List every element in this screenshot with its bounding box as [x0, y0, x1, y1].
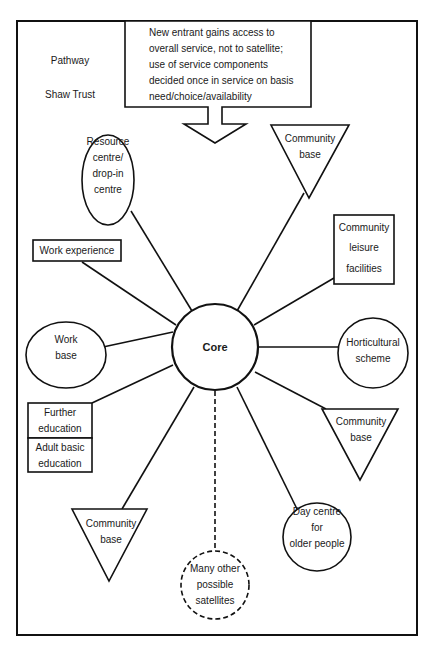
other-satellites-node: Many other possible satellites — [181, 551, 249, 619]
svg-text:Resource: Resource — [87, 136, 130, 147]
svg-text:Community: Community — [336, 416, 387, 427]
svg-text:Work experience: Work experience — [40, 245, 115, 256]
community-leisure-node: Community leisure facilities — [334, 215, 394, 284]
svg-text:Work: Work — [54, 334, 78, 345]
day-centre-node: Day centre for older people — [283, 503, 351, 571]
further-education-node: Further education — [28, 403, 92, 438]
svg-text:centre/: centre/ — [93, 152, 124, 163]
svg-text:scheme: scheme — [355, 353, 390, 364]
svg-text:centre: centre — [94, 184, 122, 195]
svg-text:Adult basic: Adult basic — [36, 442, 85, 453]
svg-text:Horticultural: Horticultural — [346, 337, 399, 348]
shaw-trust-label: Shaw Trust — [45, 89, 95, 100]
svg-text:decided once in service on bas: decided once in service on basis — [149, 75, 294, 86]
resource-centre-node: Resource centre/ drop-in centre — [82, 135, 134, 225]
svg-text:Further: Further — [44, 407, 77, 418]
svg-text:Many other: Many other — [190, 563, 241, 574]
svg-text:base: base — [55, 350, 77, 361]
svg-text:need/choice/availability: need/choice/availability — [149, 91, 252, 102]
adult-basic-education-node: Adult basic education — [28, 438, 92, 472]
svg-text:older people: older people — [289, 538, 344, 549]
work-experience-node: Work experience — [33, 240, 121, 261]
svg-text:education: education — [38, 458, 81, 469]
svg-text:drop-in: drop-in — [92, 168, 123, 179]
svg-text:satellites: satellites — [196, 595, 235, 606]
work-base-node: Work base — [26, 322, 106, 388]
svg-text:Community: Community — [86, 518, 137, 529]
svg-text:facilities: facilities — [346, 263, 382, 274]
community-base-right-node: Community base — [322, 409, 398, 480]
core-node: Core — [172, 304, 258, 390]
community-base-bottom-node: Community base — [72, 509, 147, 581]
svg-text:New entrant gains access to: New entrant gains access to — [149, 27, 275, 38]
community-base-top-node: Community base — [271, 125, 349, 198]
svg-text:leisure: leisure — [349, 242, 379, 253]
svg-text:Community: Community — [339, 222, 390, 233]
svg-text:base: base — [100, 534, 122, 545]
svg-text:overall service, not to satell: overall service, not to satellite; — [149, 43, 283, 54]
horticultural-node: Horticultural scheme — [338, 318, 408, 388]
svg-text:Core: Core — [202, 341, 227, 353]
svg-text:education: education — [38, 423, 81, 434]
svg-text:base: base — [350, 432, 372, 443]
svg-text:base: base — [299, 149, 321, 160]
svg-text:possible: possible — [197, 579, 234, 590]
pathway-label: Pathway — [51, 55, 89, 66]
svg-text:Day centre: Day centre — [293, 506, 342, 517]
svg-text:use of service components: use of service components — [149, 59, 268, 70]
svg-text:Community: Community — [285, 133, 336, 144]
service-model-diagram: Pathway Shaw Trust New entrant gains acc… — [0, 0, 432, 648]
svg-text:for: for — [311, 522, 323, 533]
